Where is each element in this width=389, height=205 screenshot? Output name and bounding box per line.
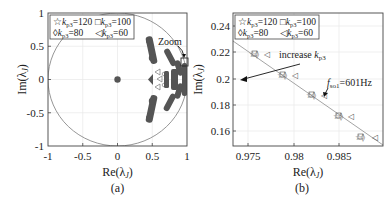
svg-text:◁: ◁ [263, 50, 270, 59]
xtick-label: 0.98 [284, 150, 304, 162]
legend-item: ◊kp3=80 [53, 28, 84, 39]
legend-b: ☆kp3=120 □kp3=100 ◊kp3=80 ◁kp3=60 [235, 15, 319, 39]
ytick-labels-a: 1 0.5 0 -0.5 -1 [27, 7, 45, 152]
ytick-label: 0.16 [211, 125, 231, 137]
svg-text:◊: ◊ [255, 50, 259, 59]
svg-text:◊: ◊ [312, 91, 316, 100]
svg-text:◊: ◊ [339, 112, 343, 121]
xlabel-a: Re(λJ) [102, 165, 133, 180]
ytick-labels-b: 0.24 0.22 0.2 0.18 0.16 [211, 20, 231, 137]
xtick-label: 0.5 [145, 150, 159, 162]
figure: Zoom -1 -0.5 0 0.5 1 1 0.5 0 -0.5 -1 [0, 0, 389, 205]
svg-text:◁: ◁ [347, 112, 354, 121]
ytick-label: 1 [39, 7, 45, 19]
xtick-label: -0.5 [74, 150, 92, 162]
legend-item: ☆kp3=120 [238, 17, 278, 28]
ytick-label: -0.5 [27, 107, 45, 119]
xtick-label: -1 [43, 150, 52, 162]
xtick-labels-b: 0.975 0.98 0.985 [236, 150, 352, 162]
caption-a: (a) [111, 181, 124, 195]
xtick-label: 0.985 [327, 150, 352, 162]
ytick-label: 0.24 [211, 20, 231, 32]
xlabel-b: Re(λJ) [293, 165, 324, 180]
ytick-label: 0.5 [30, 40, 44, 52]
legend-item: ◊kp3=80 [238, 28, 269, 39]
ytick-label: 0 [39, 73, 45, 85]
svg-text:◁: ◁ [291, 71, 298, 80]
xtick-label: 1 [184, 150, 190, 162]
ylabel-b: Im(λJ) [191, 64, 206, 95]
svg-text:◊: ◊ [361, 133, 365, 142]
panel-b: ☆◊◁ ☆◊◁ ☆◊◁ ☆◊◁ ☆◊◁ increase kp3 fso1=60… [191, 13, 383, 195]
ytick-label: -1 [35, 140, 44, 152]
svg-text:◁: ◁ [371, 133, 378, 142]
ytick-label: 0.22 [211, 46, 230, 58]
xtick-label: 0.975 [236, 150, 261, 162]
svg-text:◊: ◊ [283, 71, 287, 80]
legend-a: ☆kp3=120 □kp3=100 ◊kp3=80 ◁kp3=60 [50, 15, 134, 39]
legend-item: □kp3=100 [280, 17, 316, 28]
ytick-label: 0.2 [216, 73, 230, 85]
xtick-label: 0 [115, 150, 121, 162]
ytick-label: 0.18 [211, 99, 231, 111]
ylabel-a: Im(λJ) [15, 64, 30, 95]
zoom-label: Zoom [158, 36, 182, 47]
panel-a: Zoom -1 -0.5 0 0.5 1 1 0.5 0 -0.5 -1 [15, 7, 190, 195]
legend-item: ☆kp3=120 [53, 17, 93, 28]
legend-item: □kp3=100 [95, 17, 131, 28]
xtick-labels-a: -1 -0.5 0 0.5 1 [43, 150, 189, 162]
caption-b: (b) [295, 181, 309, 195]
